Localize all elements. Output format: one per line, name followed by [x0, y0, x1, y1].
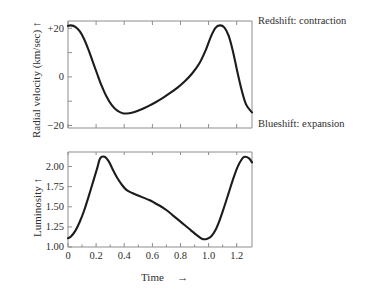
bottom-panel-x-ticks	[68, 152, 237, 247]
radial-velocity-curve	[68, 25, 252, 113]
redshift-contraction-annotation: Redshift: contraction	[258, 16, 346, 27]
luminosity-curve	[68, 157, 252, 240]
bottom-panel-ytick-label-1: 1.75	[29, 182, 64, 193]
bottom-panel-ytick-label-3: 1.25	[29, 222, 64, 233]
x-axis-arrow: →	[177, 271, 188, 283]
bottom-panel-frame	[68, 152, 252, 247]
top-panel-ytick-label-1: 0	[32, 72, 64, 83]
xtick-label-5: 1.0	[194, 251, 224, 262]
bottom-panel-ytick-label-2: 1.50	[29, 202, 64, 213]
xtick-label-3: 0.6	[137, 251, 167, 262]
top-panel-ytick-label-0: +20	[32, 24, 64, 35]
x-axis-title-text: Time	[141, 271, 164, 283]
xtick-label-4: 0.8	[166, 251, 196, 262]
bottom-panel-ytick-label-0: 2.00	[29, 162, 64, 173]
xtick-label-6: 1.2	[222, 251, 252, 262]
xtick-label-1: 0.2	[81, 251, 111, 262]
top-panel-ytick-label-2: −20	[32, 121, 64, 132]
top-panel-frame	[68, 21, 252, 128]
blueshift-expansion-annotation: Blueshift: expansion	[258, 119, 345, 130]
x-axis-title: Time →	[141, 272, 188, 283]
xtick-label-0: 0	[53, 251, 83, 262]
xtick-label-2: 0.4	[109, 251, 139, 262]
top-panel-y-ticks	[68, 28, 72, 125]
cepheid-pulsation-figure: Radial velocity (km/sec) ↑ +20 0 −20 Red…	[0, 0, 368, 296]
